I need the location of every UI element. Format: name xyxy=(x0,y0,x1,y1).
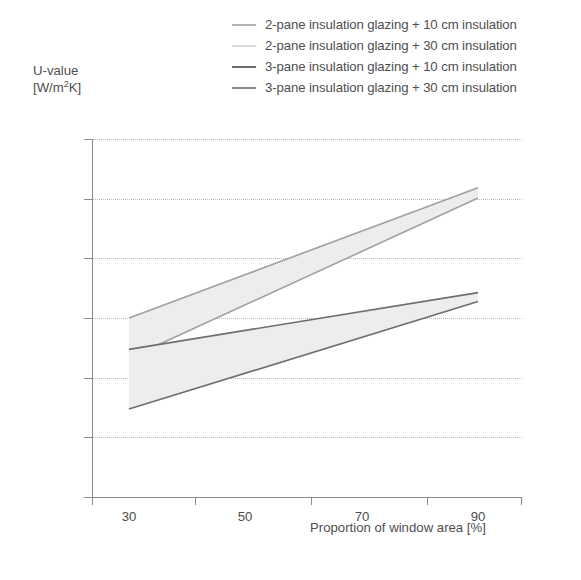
y-axis-tick xyxy=(84,139,92,140)
x-axis-tick xyxy=(311,497,312,505)
data-bands xyxy=(92,139,522,497)
chart-legend: 2-pane insulation glazing + 10 cm insula… xyxy=(232,14,517,98)
legend-item-label: 2-pane insulation glazing + 30 cm insula… xyxy=(265,38,517,53)
legend-item[interactable]: 3-pane insulation glazing + 10 cm insula… xyxy=(232,56,517,77)
y-axis-title-line2-pre: [W/m xyxy=(33,80,64,95)
y-axis-tick xyxy=(84,258,92,259)
y-axis-title-line1: U-value xyxy=(33,63,78,78)
legend-item-label: 3-pane insulation glazing + 10 cm insula… xyxy=(265,59,517,74)
legend-item[interactable]: 3-pane insulation glazing + 30 cm insula… xyxy=(232,77,517,98)
x-axis-tick xyxy=(521,497,522,505)
legend-item-label: 2-pane insulation glazing + 10 cm insula… xyxy=(265,17,517,32)
y-axis-tick xyxy=(84,318,92,319)
y-axis-line xyxy=(92,139,93,497)
legend-line-swatch-icon xyxy=(232,45,256,47)
legend-item[interactable]: 2-pane insulation glazing + 30 cm insula… xyxy=(232,35,517,56)
x-axis-title: Proportion of window area [%] xyxy=(310,520,486,535)
y-axis-tick xyxy=(84,378,92,379)
x-axis-tick xyxy=(427,497,428,505)
y-axis-title-line2-post: K] xyxy=(69,80,81,95)
y-axis-tick xyxy=(84,199,92,200)
legend-line-swatch-icon xyxy=(232,87,256,89)
legend-item-label: 3-pane insulation glazing + 30 cm insula… xyxy=(265,80,517,95)
x-axis-tick xyxy=(195,497,196,505)
band-2-pane-upper-line xyxy=(129,188,478,318)
legend-item[interactable]: 2-pane insulation glazing + 10 cm insula… xyxy=(232,14,517,35)
legend-line-swatch-icon xyxy=(232,66,256,68)
x-axis-line xyxy=(84,497,522,498)
x-axis-tick-label: 50 xyxy=(215,509,275,524)
chart-container: 2-pane insulation glazing + 10 cm insula… xyxy=(0,0,581,580)
legend-line-swatch-icon xyxy=(232,24,256,26)
y-axis-tick xyxy=(84,437,92,438)
x-axis-tick xyxy=(92,497,93,505)
plot-area: 1.2 1.0 0.8 0.6 0.4 0.2 0.0 30 50 70 xyxy=(92,139,522,497)
x-axis-tick-label: 30 xyxy=(99,509,159,524)
y-axis-title: U-value[W/m2K] xyxy=(33,62,81,96)
